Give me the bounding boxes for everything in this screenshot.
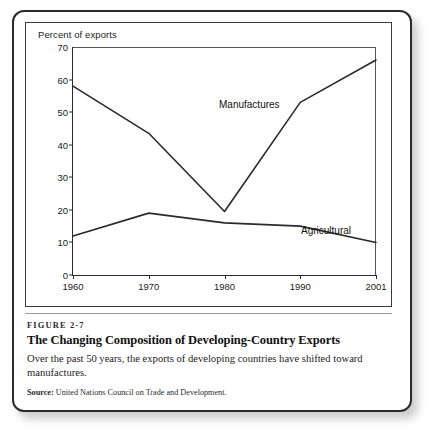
- chart-panel: Percent of exports Manufactures Agricult…: [25, 22, 392, 307]
- y-axis-tick-label: 0: [63, 270, 68, 281]
- y-axis-tick-label: 10: [57, 237, 68, 248]
- x-axis-tick-mark: [225, 275, 226, 279]
- x-axis-tick-label: 1970: [138, 281, 159, 292]
- series-label-manufactures: Manufactures: [219, 99, 280, 110]
- series-line-manufactures: [73, 60, 376, 211]
- figure-number: FIGURE 2-7: [27, 320, 390, 330]
- y-axis-tick-mark: [69, 112, 73, 113]
- plot-area: Manufactures Agricultural 01020304050607…: [72, 47, 376, 276]
- figure-title: The Changing Composition of Developing-C…: [27, 333, 390, 348]
- y-axis-tick-mark: [69, 144, 73, 145]
- figure-description: Over the past 50 years, the exports of d…: [27, 352, 375, 380]
- series-lines: [73, 47, 376, 275]
- x-axis-tick-label: 2001: [365, 281, 386, 292]
- x-axis-tick-label: 1990: [290, 281, 311, 292]
- series-label-agricultural: Agricultural: [301, 225, 351, 236]
- x-axis-tick-label: 1960: [62, 281, 83, 292]
- y-axis-tick-mark: [69, 79, 73, 80]
- y-axis-tick-mark: [69, 177, 73, 178]
- x-axis-tick-label: 1980: [214, 281, 235, 292]
- figure-caption: FIGURE 2-7 The Changing Composition of D…: [25, 316, 392, 397]
- figure-card: Percent of exports Manufactures Agricult…: [12, 10, 412, 412]
- x-axis-tick-mark: [300, 275, 301, 279]
- figure-source-text: United Nations Council on Trade and Deve…: [56, 388, 227, 397]
- y-axis-tick-label: 60: [57, 74, 68, 85]
- caption-divider: [25, 313, 392, 314]
- y-axis-tick-label: 70: [57, 42, 68, 53]
- y-axis-tick-mark: [69, 209, 73, 210]
- y-axis-tick-label: 40: [57, 139, 68, 150]
- y-axis-tick-label: 20: [57, 204, 68, 215]
- x-axis-tick-mark: [149, 275, 150, 279]
- x-axis-tick-mark: [73, 275, 74, 279]
- figure-source: Source: United Nations Council on Trade …: [27, 388, 390, 397]
- x-axis-tick-mark: [376, 275, 377, 279]
- figure-source-label: Source:: [27, 388, 54, 397]
- y-axis-tick-mark: [69, 242, 73, 243]
- y-axis-tick-label: 30: [57, 172, 68, 183]
- y-axis-title: Percent of exports: [38, 29, 117, 40]
- y-axis-tick-label: 50: [57, 107, 68, 118]
